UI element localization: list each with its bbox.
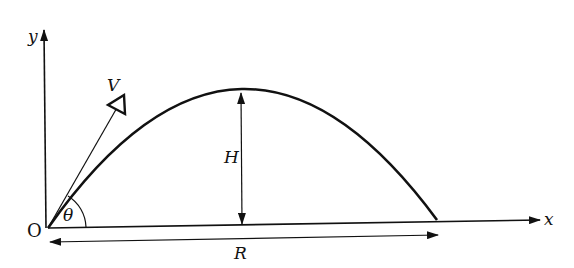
velocity-arrowhead-icon <box>108 95 125 114</box>
trajectory-curve <box>48 89 437 228</box>
origin-label: O <box>27 220 42 241</box>
x-axis-label: x <box>544 209 554 229</box>
angle-label: θ <box>63 205 73 225</box>
projectile-diagram: y x O V θ H R <box>0 0 574 268</box>
height-label: H <box>223 147 240 167</box>
y-axis <box>44 30 46 228</box>
height-arrow <box>241 93 242 224</box>
x-axis <box>48 220 540 228</box>
velocity-vector <box>48 106 118 228</box>
velocity-label: V <box>107 75 121 95</box>
range-label: R <box>233 243 247 263</box>
range-arrow <box>50 235 438 242</box>
y-axis-label: y <box>27 26 38 46</box>
